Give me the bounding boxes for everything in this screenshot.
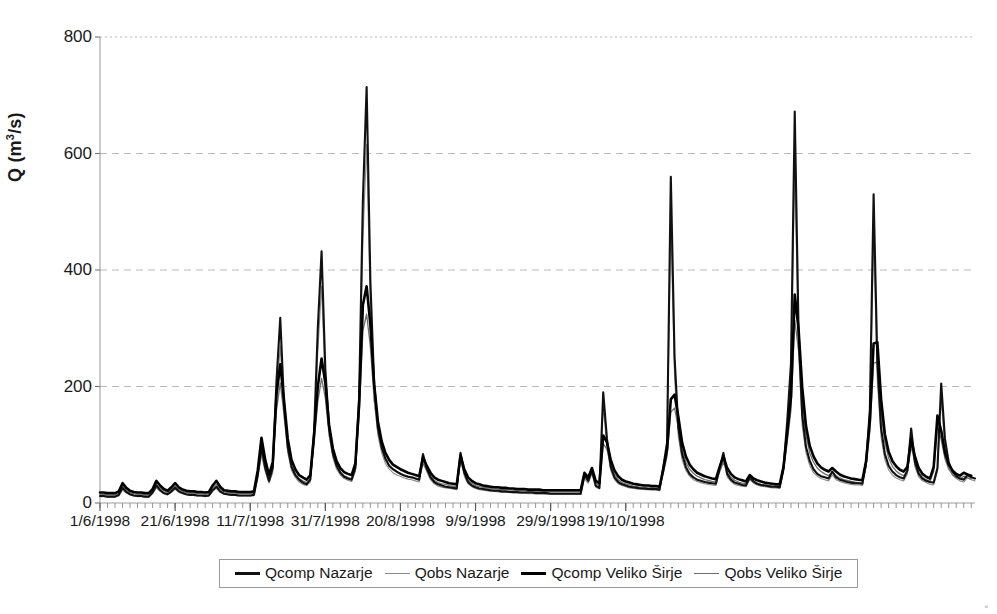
legend-label: Qobs Nazarje (415, 564, 510, 582)
x-tick-label-2: 11/7/1998 (216, 512, 284, 530)
legend-item-0: Qcomp Nazarje (229, 564, 379, 582)
data-series-layer (100, 87, 975, 497)
series-line-2 (100, 286, 971, 493)
legend-item-3: Qobs Veliko Širje (688, 564, 848, 582)
axis-ticks (95, 37, 971, 511)
gridlines (100, 37, 975, 387)
x-tick-label-3: 31/7/1998 (291, 512, 360, 530)
x-tick-label-4: 20/8/1998 (366, 512, 435, 530)
scan-artifact-mark: ⁌ (984, 602, 989, 612)
series-line-1 (100, 144, 975, 497)
legend-label: Qobs Veliko Širje (724, 564, 842, 582)
legend-item-2: Qcomp Veliko Širje (515, 564, 688, 582)
legend-swatch-icon (385, 573, 410, 574)
legend-swatch-icon (694, 573, 719, 574)
x-tick-label-7: 19/10/1998 (587, 512, 665, 530)
x-tick-label-6: 29/9/1998 (516, 512, 585, 530)
legend-swatch-icon (235, 572, 260, 575)
x-tick-label-1: 21/6/1998 (141, 512, 210, 530)
x-tick-label-0: 1/6/1998 (70, 512, 130, 530)
legend-label: Qcomp Nazarje (265, 564, 373, 582)
x-axis-tick-labels: 1/6/199821/6/199811/7/199831/7/199820/8/… (0, 512, 997, 536)
chart-legend: Qcomp NazarjeQobs NazarjeQcomp Veliko Ši… (219, 559, 858, 588)
legend-label: Qcomp Veliko Širje (551, 564, 682, 582)
x-tick-label-5: 9/9/1998 (445, 512, 505, 530)
legend-item-1: Qobs Nazarje (379, 564, 516, 582)
series-line-3 (100, 314, 971, 495)
series-line-0 (100, 87, 975, 496)
legend-swatch-icon (521, 572, 546, 575)
